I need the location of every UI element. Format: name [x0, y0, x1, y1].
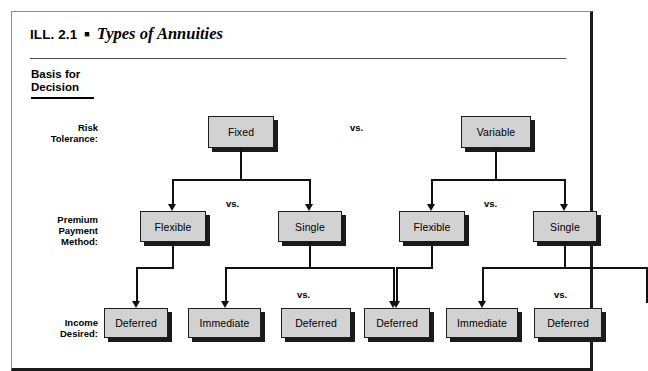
basis-for-decision-heading: Basis for Decision	[31, 68, 80, 94]
row-label-income-desired: Income Desired:	[20, 317, 98, 339]
separator-top-vs: vs.	[350, 122, 363, 133]
row-label-premium-payment-method: Premium Payment Method:	[20, 214, 98, 247]
title-divider	[30, 58, 566, 59]
connector-fixed-single-to-immediate	[225, 267, 227, 303]
connector-variable-to-single	[564, 179, 566, 206]
illustration-header: ILL. 2.1 ■ Types of Annuities	[30, 24, 570, 54]
illustration-title: Types of Annuities	[97, 24, 223, 44]
node-fixed-flexible-deferred-label: Deferred	[115, 317, 157, 329]
connector-fixed-stem	[240, 148, 242, 180]
connector-fixed-single-spread	[225, 267, 394, 269]
separator-right-premium-vs: vs.	[484, 198, 497, 209]
connector-variable-spread	[431, 179, 565, 181]
separator-right-income-vs: vs.	[554, 289, 567, 300]
node-variable[interactable]: Variable	[461, 116, 531, 148]
node-fixed-label: Fixed	[228, 126, 254, 138]
connector-fixed-single-to-deferred	[393, 267, 395, 303]
connector-variable-stem	[495, 148, 497, 180]
node-variable-single-label: Single	[550, 221, 580, 233]
separator-left-income-vs: vs.	[297, 289, 310, 300]
node-fixed-single-immediate[interactable]: Immediate	[188, 308, 261, 338]
node-fixed-single-label: Single	[295, 221, 325, 233]
node-variable-single[interactable]: Single	[533, 211, 597, 242]
connector-fixed-spread	[172, 179, 310, 181]
connector-variable-flexible-elbow	[396, 267, 433, 269]
node-fixed-flexible[interactable]: Flexible	[140, 211, 206, 242]
node-fixed[interactable]: Fixed	[208, 116, 274, 148]
arrowhead-variable-to-flexible	[427, 204, 435, 211]
arrowhead-variable-flexible-deferred	[392, 301, 400, 308]
row-label-risk-tolerance: Risk Tolerance:	[20, 122, 98, 144]
node-variable-flexible-deferred-label: Deferred	[376, 317, 418, 329]
node-variable-flexible-label: Flexible	[414, 221, 451, 233]
node-variable-single-deferred-label: Deferred	[547, 317, 589, 329]
node-fixed-single-deferred[interactable]: Deferred	[281, 308, 351, 338]
connector-fixed-single-stem	[309, 242, 311, 268]
node-fixed-single-immediate-label: Immediate	[200, 317, 250, 329]
connector-variable-flexible-stem	[431, 242, 433, 268]
connector-fixed-flexible-drop	[136, 267, 138, 303]
connector-variable-flexible-drop	[396, 267, 398, 303]
arrowhead-fixed-single-immediate	[221, 301, 229, 308]
separator-left-premium-vs: vs.	[226, 198, 239, 209]
connector-variable-single-stem	[564, 242, 566, 268]
connector-fixed-flexible-elbow	[136, 267, 174, 269]
node-variable-flexible[interactable]: Flexible	[399, 211, 465, 242]
connector-variable-to-flexible	[431, 179, 433, 206]
connector-variable-single-spread	[482, 267, 648, 269]
node-fixed-single[interactable]: Single	[278, 211, 342, 242]
arrowhead-variable-to-single	[560, 204, 568, 211]
node-variable-label: Variable	[477, 126, 516, 138]
square-bullet-icon: ■	[84, 30, 89, 39]
connector-fixed-flexible-stem	[172, 242, 174, 268]
node-variable-single-immediate[interactable]: Immediate	[446, 308, 518, 338]
illustration-frame: ILL. 2.1 ■ Types of Annuities Basis for …	[11, 11, 593, 371]
connector-variable-single-to-immediate	[482, 267, 484, 303]
node-fixed-single-deferred-label: Deferred	[295, 317, 337, 329]
connector-fixed-to-flexible	[172, 179, 174, 206]
arrowhead-fixed-to-single	[305, 204, 313, 211]
basis-for-decision-underline	[31, 97, 94, 99]
arrowhead-variable-single-immediate	[478, 301, 486, 308]
node-variable-flexible-deferred[interactable]: Deferred	[364, 308, 430, 338]
arrowhead-fixed-flexible-deferred	[132, 301, 140, 308]
illustration-number: ILL. 2.1	[30, 27, 77, 42]
node-variable-single-deferred[interactable]: Deferred	[534, 308, 602, 338]
arrowhead-fixed-to-flexible	[168, 204, 176, 211]
connector-fixed-to-single	[309, 179, 311, 206]
node-fixed-flexible-label: Flexible	[155, 221, 192, 233]
connector-variable-single-to-deferred	[646, 267, 648, 303]
node-fixed-flexible-deferred[interactable]: Deferred	[104, 308, 168, 338]
node-variable-single-immediate-label: Immediate	[457, 317, 507, 329]
